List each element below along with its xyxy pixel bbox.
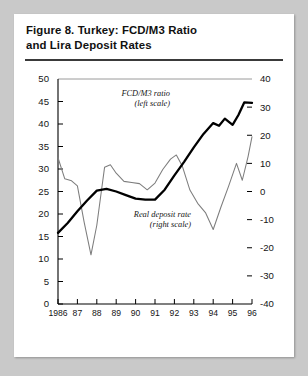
- left-axis-tick-labels: 05101520253035404550: [38, 73, 49, 309]
- left-tick-label: 35: [38, 140, 49, 151]
- figure-card: Figure 8. Turkey: FCD/M3 Ratio and Lira …: [14, 14, 294, 357]
- left-tick-label: 20: [38, 208, 49, 219]
- series-real-deposit-rate: [58, 136, 252, 254]
- left-tick-label: 25: [38, 185, 49, 196]
- right-tick-label: 0: [260, 185, 265, 196]
- left-tick-label: 10: [38, 253, 49, 264]
- right-tick-label: 20: [260, 129, 271, 140]
- real-deposit-annotation-line-2: (right scale): [150, 220, 191, 229]
- left-tick-label: 30: [38, 163, 49, 174]
- x-tick-label: 1986: [48, 308, 67, 318]
- figure-title-line-2: and Lira Deposit Rates: [26, 38, 282, 53]
- right-tick-label: -10: [260, 214, 274, 225]
- real-deposit-annotation-line-1: Real deposit rate: [133, 210, 192, 219]
- left-tick-label: 40: [38, 118, 49, 129]
- x-tick-label: 96: [247, 308, 257, 318]
- fcd-m3-annotation-line-2: (left scale): [134, 99, 170, 108]
- x-tick-label: 95: [228, 308, 238, 318]
- figure-title: Figure 8. Turkey: FCD/M3 Ratio and Lira …: [14, 14, 294, 52]
- right-tick-label: 30: [260, 101, 271, 112]
- right-tick-label: -20: [260, 242, 274, 253]
- right-tick-label: -40: [260, 298, 274, 309]
- x-tick-label: 93: [189, 308, 199, 318]
- left-tick-label: 45: [38, 95, 49, 106]
- x-tick-label: 88: [92, 308, 102, 318]
- figure-title-line-1: Figure 8. Turkey: FCD/M3 Ratio: [26, 23, 282, 38]
- chart-svg: 05101520253035404550 -40-30-20-100102030…: [14, 69, 294, 347]
- fcd-m3-annotation-line-1: FCD/M3 ratio: [120, 89, 170, 98]
- x-tick-label: 90: [131, 308, 141, 318]
- x-tick-label: 87: [73, 308, 83, 318]
- right-tick-label: 40: [260, 73, 271, 84]
- x-axis-ticks: [58, 299, 252, 304]
- x-tick-label: 91: [150, 308, 160, 318]
- x-tick-label: 92: [170, 308, 180, 318]
- left-axis-ticks: [58, 101, 63, 304]
- right-axis-ticks: [247, 107, 252, 276]
- left-tick-label: 15: [38, 230, 49, 241]
- title-divider: [25, 59, 283, 61]
- chart-plot-area: 05101520253035404550 -40-30-20-100102030…: [14, 69, 294, 347]
- left-tick-label: 50: [38, 73, 49, 84]
- right-tick-label: 10: [260, 157, 271, 168]
- right-tick-label: -30: [260, 270, 274, 281]
- x-tick-label: 94: [208, 308, 218, 318]
- left-tick-label: 5: [44, 275, 49, 286]
- x-axis-tick-labels: 198687888990919293949596: [48, 308, 257, 318]
- right-axis-tick-labels: -40-30-20-10010203040: [260, 73, 274, 309]
- x-tick-label: 89: [111, 308, 121, 318]
